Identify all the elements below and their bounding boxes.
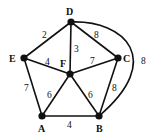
node-e [20,54,27,61]
edge-weight-f-a: 6 [47,90,52,100]
edge-weight-a-b: 4 [67,120,72,130]
edge-weight-c-b: 8 [112,83,117,93]
node-label-f: F [60,58,66,69]
weighted-graph-diagram: 23847766848 ABCDEF [0,0,156,139]
edges-group [24,22,133,116]
node-a [38,112,45,119]
edge-weight-f-b: 6 [88,90,93,100]
edge-weight-f-c: 7 [90,56,95,66]
node-label-e: E [9,53,16,64]
edge-weight-e-f: 4 [45,57,50,67]
node-label-c: C [123,53,130,64]
edge-weight-d-e: 2 [42,30,47,40]
edge-d-f [70,22,71,74]
node-label-a: A [38,123,46,134]
edge-d-e [24,22,71,58]
node-b [95,112,102,119]
edge-weight-d-c: 8 [94,30,99,40]
node-f [66,70,73,77]
edge-weight-e-a: 7 [24,83,29,93]
node-label-d: D [66,6,73,17]
edge-f-b [70,74,99,116]
node-c [114,54,121,61]
edge-weight-d-f: 3 [74,44,79,54]
edge-d-b [71,22,133,116]
node-d [67,18,74,25]
node-label-b: B [96,123,103,134]
edge-weight-d-b: 8 [141,56,146,66]
